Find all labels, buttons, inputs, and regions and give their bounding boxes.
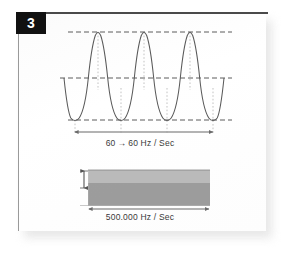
guide-lines xyxy=(60,32,232,120)
amplitude-span-measure xyxy=(80,171,88,188)
high-frequency-chart xyxy=(80,170,210,209)
low-frequency-caption: 60→60 Hz / Sec xyxy=(60,138,220,148)
high-frequency-caption: 500.000 Hz / Sec xyxy=(60,212,220,222)
extremum-droppers xyxy=(75,32,213,133)
dense-waveform-strokes xyxy=(88,170,210,206)
low-frequency-caption-arrow-icon: → xyxy=(116,138,129,148)
low-frequency-caption-value-2: 60 Hz / Sec xyxy=(128,138,174,148)
figure-number-badge: 3 xyxy=(16,12,46,34)
figure-root: 3 xyxy=(0,0,297,256)
low-frequency-chart xyxy=(60,32,232,133)
low-frequency-caption-value-1: 60 xyxy=(106,138,116,148)
